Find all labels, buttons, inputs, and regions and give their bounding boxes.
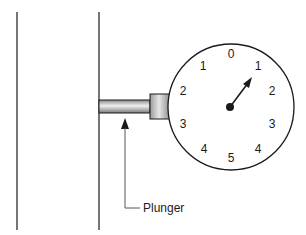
plunger-label: Plunger xyxy=(143,201,184,215)
callout-arrowhead-icon xyxy=(121,118,129,129)
dial-label-left-3: 3 xyxy=(180,117,187,131)
plunger-dial-diagram: 0 1 2 3 4 5 4 3 2 1 Plunger xyxy=(0,0,306,235)
dial-label-left-1: 1 xyxy=(200,59,207,73)
plunger-collar xyxy=(150,94,170,119)
dial-label-right-4: 4 xyxy=(255,142,262,156)
dial-label-left-2: 2 xyxy=(180,84,187,98)
dial-label-right-3: 3 xyxy=(269,117,276,131)
needle-hub xyxy=(226,103,234,111)
dial-label-left-4: 4 xyxy=(201,142,208,156)
plunger-shaft xyxy=(99,100,150,113)
dial-label-right-2: 2 xyxy=(269,84,276,98)
dial-label-right-1: 1 xyxy=(255,59,262,73)
dial-label-bottom-5: 5 xyxy=(228,151,235,165)
dial-label-top-0: 0 xyxy=(228,47,235,61)
